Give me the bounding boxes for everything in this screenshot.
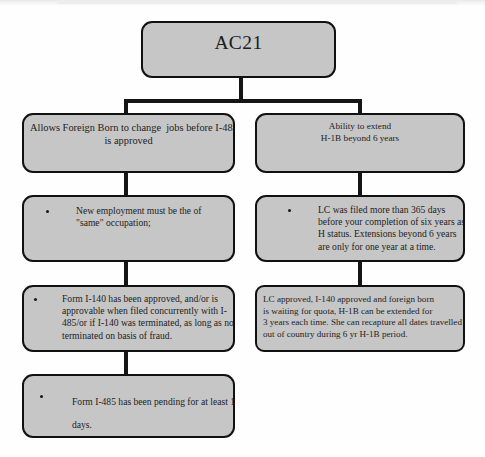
flowchart-canvas: AC21 Allows Foreign Born to change jobs … <box>0 0 485 457</box>
node-left-step-2-inner: Form I-140 has been approved, and/or is … <box>24 287 233 350</box>
connector-right-1-2 <box>358 172 362 196</box>
bulleted-content: LC was filed more than 365 days before y… <box>265 204 455 253</box>
node-right-step-2-text: LC approved, I-140 approved and foreign … <box>263 294 457 340</box>
text-line: H-1B beyond 6 years <box>263 133 457 145</box>
connector-left-drop <box>124 99 128 114</box>
node-right-step-2[interactable]: LC approved, I-140 approved and foreign … <box>255 285 465 352</box>
connector-split-bar <box>124 99 362 103</box>
text-line: "same" occupation; <box>76 217 225 229</box>
node-right-step-1[interactable]: LC was filed more than 365 days before y… <box>255 195 465 262</box>
page-title: AC21 <box>143 32 334 54</box>
text-line: before your completion of six years as <box>318 216 455 228</box>
node-left-step-3-text: Form I-485 has been pending for at least… <box>72 390 225 436</box>
text-line: 3 years each time. She can recapture all… <box>263 317 457 329</box>
text-line: are only for one year at a time. <box>318 241 455 253</box>
text-line: days. <box>72 413 225 436</box>
node-right-heading-inner: Ability to extend H-1B beyond 6 years <box>257 115 463 171</box>
node-left-step-1-text: New employment must be the of "same" occ… <box>76 205 225 229</box>
node-right-step-1-text: LC was filed more than 365 days before y… <box>318 204 455 253</box>
text-line: out of country during 6 yr H-1B period. <box>263 329 457 341</box>
text-line: is waiting for quota, H-1B can be extend… <box>263 306 457 318</box>
bulleted-content: Form I-140 has been approved, and/or is … <box>32 293 225 342</box>
bullet-icon <box>40 395 43 398</box>
text-line: terminated on basis of fraud. <box>62 330 225 342</box>
bullet-icon <box>46 210 49 213</box>
bullet-icon <box>288 209 291 212</box>
connector-right-2-3 <box>358 261 362 286</box>
text-line: New employment must be the of <box>76 205 225 217</box>
text-line: Form I-140 has been approved, and/or is <box>62 293 225 305</box>
text-line: H status. Extensions beyond 6 years <box>318 228 455 240</box>
text-line: is approved <box>30 135 227 148</box>
connector-root-stem <box>239 77 243 101</box>
node-left-heading-text: Allows Foreign Born to change jobs befor… <box>30 122 227 147</box>
connector-left-2-3 <box>124 261 128 286</box>
scan-edge-artifact-secondary <box>57 0 457 4</box>
node-left-step-3-inner: Form I-485 has been pending for at least… <box>24 376 233 436</box>
text-line: Ability to extend <box>263 121 457 133</box>
text-line: LC was filed more than 365 days <box>318 204 455 216</box>
node-right-step-2-inner: LC approved, I-140 approved and foreign … <box>257 287 463 350</box>
bullet-icon <box>34 298 37 301</box>
node-left-heading-inner: Allows Foreign Born to change jobs befor… <box>24 115 233 171</box>
node-left-step-2[interactable]: Form I-140 has been approved, and/or is … <box>22 285 235 352</box>
node-ac21-root-inner: AC21 <box>143 23 334 76</box>
bulleted-content: New employment must be the of "same" occ… <box>32 205 225 229</box>
node-left-step-1-inner: New employment must be the of "same" occ… <box>24 197 233 260</box>
node-left-step-1[interactable]: New employment must be the of "same" occ… <box>22 195 235 262</box>
text-line: Form I-485 has been pending for at least… <box>72 390 225 413</box>
node-left-step-3[interactable]: Form I-485 has been pending for at least… <box>22 374 235 438</box>
connector-left-3-4 <box>124 351 128 375</box>
text-line: approvable when filed concurrently with … <box>62 305 225 317</box>
text-line: LC approved, I-140 approved and foreign … <box>263 294 457 306</box>
text-line: Allows Foreign Born to change jobs befor… <box>30 122 227 135</box>
node-left-step-2-text: Form I-140 has been approved, and/or is … <box>62 293 225 342</box>
connector-left-1-2 <box>124 172 128 196</box>
node-right-step-1-inner: LC was filed more than 365 days before y… <box>257 197 463 260</box>
node-right-heading[interactable]: Ability to extend H-1B beyond 6 years <box>255 113 465 173</box>
node-right-heading-text: Ability to extend H-1B beyond 6 years <box>263 121 457 144</box>
connector-right-drop <box>358 99 362 114</box>
node-ac21-root[interactable]: AC21 <box>141 21 336 78</box>
bulleted-content: Form I-485 has been pending for at least… <box>32 390 225 436</box>
text-line: 485/or if I-140 was terminated, as long … <box>62 317 225 329</box>
node-left-heading[interactable]: Allows Foreign Born to change jobs befor… <box>22 113 235 173</box>
